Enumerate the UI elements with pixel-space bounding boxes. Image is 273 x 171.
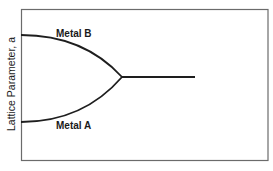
metal-b-curve	[21, 35, 122, 77]
metal-a-curve	[21, 77, 122, 122]
diagram-canvas	[0, 0, 273, 171]
metal-a-label: Metal A	[56, 121, 91, 131]
metal-b-label: Metal B	[56, 29, 92, 39]
y-axis-label: Lattice Parameter, a	[6, 37, 17, 131]
